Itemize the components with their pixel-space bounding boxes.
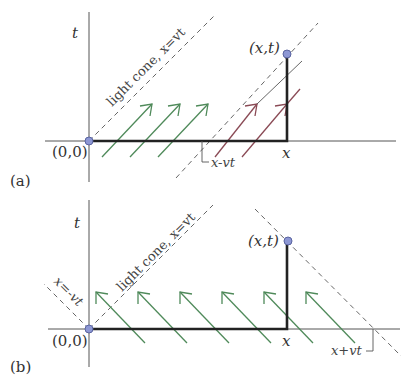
spacetime-diagram: t (0,0) (x,t) x x-vt light cone, x=vt (a… (0, 0, 408, 389)
panel-b: t (0,0) (x,t) x x+vt light cone, x=vt x=… (10, 200, 401, 376)
t-axis-label: t (72, 24, 79, 42)
origin-label: (0,0) (52, 143, 88, 161)
origin-label: (0,0) (52, 332, 88, 350)
red-arrows (215, 61, 302, 157)
left-cone-label: x=-vt (51, 274, 87, 310)
intercept-marker (202, 141, 209, 162)
intercept-marker (366, 329, 373, 351)
point-label: (x,t) (248, 232, 279, 250)
panel-tag: (b) (10, 358, 31, 376)
light-cone-label: light cone, x=vt (104, 24, 189, 109)
characteristic-line (176, 23, 318, 178)
intercept-label: x+vt (331, 343, 363, 358)
t-axis-label: t (74, 214, 81, 232)
point-xt (284, 237, 292, 245)
green-arrows (96, 292, 355, 343)
panel-a: t (0,0) (x,t) x x-vt light cone, x=vt (a… (10, 12, 396, 190)
x-label: x (282, 332, 291, 350)
x-label: x (282, 144, 291, 162)
light-cone-line (89, 15, 215, 141)
point-label: (x,t) (249, 39, 280, 57)
panel-tag: (a) (10, 172, 31, 190)
light-cone-label: light cone, x=vt (114, 209, 199, 294)
point-xt (283, 50, 291, 58)
intercept-label: x-vt (211, 155, 236, 170)
